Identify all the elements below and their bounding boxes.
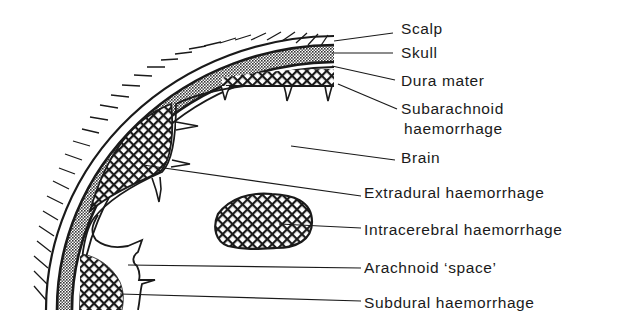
diagram-illustration xyxy=(0,0,636,327)
label-brain: Brain xyxy=(401,148,440,168)
label-dura-mater: Dura mater xyxy=(401,71,485,91)
label-intracerebral: Intracerebral haemorrhage xyxy=(364,220,563,240)
label-subdural: Subdural haemorrhage xyxy=(364,293,535,313)
label-skull: Skull xyxy=(401,43,438,63)
meninges-diagram: Scalp Skull Dura mater Subarachnoid haem… xyxy=(0,0,636,327)
label-scalp: Scalp xyxy=(401,19,443,39)
intracerebral-haematoma xyxy=(215,194,312,249)
label-subarachnoid: Subarachnoid xyxy=(401,99,504,119)
label-extradural: Extradural haemorrhage xyxy=(364,183,544,203)
label-arachnoid-space: Arachnoid ‘space’ xyxy=(364,258,497,278)
label-subarachnoid-line2: haemorrhage xyxy=(404,119,503,139)
